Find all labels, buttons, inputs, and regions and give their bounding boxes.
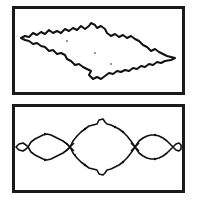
fractal-panel-bottom: Fractal boundary (Julia-set-like) — chai… xyxy=(12,104,185,193)
fractal-bottom-figure xyxy=(15,107,182,190)
fractal-panel-top: Fractal boundary (Julia-set-like) — elon… xyxy=(12,6,185,95)
fractal-top-figure xyxy=(15,9,182,92)
